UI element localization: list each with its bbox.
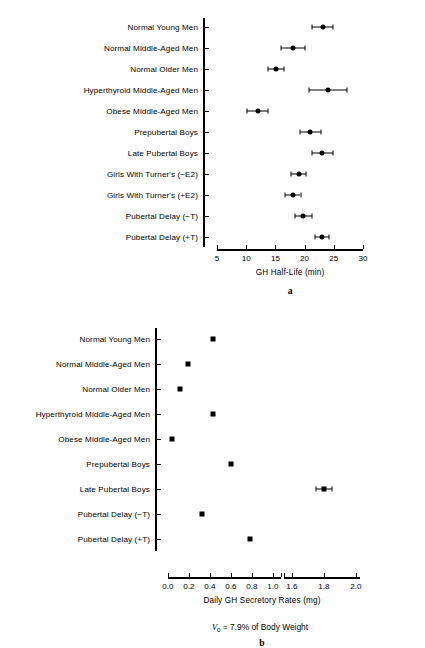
panel-a-category-label: Pubertal Delay (+T) <box>126 233 198 242</box>
panel-a-error-cap <box>312 214 313 219</box>
panel-a-x-tick <box>305 245 306 249</box>
panel-b-y-tick <box>157 339 161 340</box>
panel-a-error-cap <box>312 25 313 30</box>
panel-b-axis-break-marker <box>284 573 285 577</box>
panel-a-y-tick <box>205 174 209 175</box>
volume-note-text: = 7.9% of Body Weight <box>220 622 308 632</box>
panel-a-error-cap <box>311 151 312 156</box>
panel-a-data-point <box>301 214 306 219</box>
panel-a-data-point <box>320 25 325 30</box>
panel-b-category-label: Pubertal Delay (−T) <box>78 510 150 519</box>
panel-b-y-tick <box>157 439 161 440</box>
panel-b-category-label: Hyperthyroid Middle-Aged Men <box>36 410 150 419</box>
panel-b-x-axis-title: Daily GH Secretory Rates (mg) <box>203 596 320 606</box>
panel-a-data-point <box>273 67 278 72</box>
panel-a-y-tick <box>205 48 209 49</box>
panel-a-x-tick <box>217 245 218 249</box>
panel-a-y-tick <box>205 90 209 91</box>
panel-a-error-cap <box>294 214 295 219</box>
panel-a-data-point <box>325 88 330 93</box>
panel-b-data-point <box>247 537 252 542</box>
panel-a-x-tick-label: 10 <box>242 254 251 263</box>
panel-b-x-tick-label: 0.6 <box>225 582 236 591</box>
panel-b-category-labels: Normal Young MenNormal Middle-Aged MenNo… <box>0 310 150 601</box>
panel-a: Normal Young MenNormal Middle-Aged MenNo… <box>0 0 425 310</box>
panel-a-error-cap <box>268 67 269 72</box>
panel-a-x-tick <box>334 245 335 249</box>
panel-b-x-tick <box>324 573 325 577</box>
panel-a-error-cap <box>247 109 248 114</box>
panel-a-error-cap <box>308 88 309 93</box>
panel-b-error-cap <box>316 487 317 492</box>
panel-b-x-tick-label: 0.0 <box>162 582 173 591</box>
panel-b-category-label: Normal Older Men <box>82 385 150 394</box>
panel-a-error-cap <box>306 172 307 177</box>
panel-b-x-tick-label: 0.4 <box>204 582 215 591</box>
panel-b-category-label: Normal Middle-Aged Men <box>56 360 150 369</box>
panel-b-x-tick <box>231 573 232 577</box>
panel-b-y-tick <box>157 489 161 490</box>
panel-a-error-cap <box>281 46 282 51</box>
panel-b-x-tick <box>273 573 274 577</box>
panel-a-category-label: Obese Middle-Aged Men <box>106 107 198 116</box>
panel-b-error-cap <box>332 487 333 492</box>
panel-b-data-point <box>199 512 204 517</box>
panel-a-category-labels: Normal Young MenNormal Middle-Aged MenNo… <box>0 0 198 310</box>
volume-of-distribution-note: V0 = 7.9% of Body Weight <box>212 622 308 632</box>
panel-a-letter: a <box>288 286 293 296</box>
panel-b-x-tick <box>356 573 357 577</box>
panel-a-error-cap <box>315 235 316 240</box>
panel-a-x-tick-label: 20 <box>300 254 309 263</box>
panel-b-x-tick <box>292 573 293 577</box>
panel-a-y-tick <box>205 195 209 196</box>
panel-a-error-cap <box>329 235 330 240</box>
panel-a-error-cap <box>291 172 292 177</box>
panel-b-x-tick <box>168 573 169 577</box>
panel-a-x-tick <box>246 245 247 249</box>
panel-b-y-tick <box>157 364 161 365</box>
panel-a-y-tick <box>205 132 209 133</box>
panel-a-error-cap <box>347 88 348 93</box>
panel-b-x-tick <box>252 573 253 577</box>
panel-b-data-point <box>185 362 190 367</box>
panel-a-category-label: Normal Middle-Aged Men <box>104 44 198 53</box>
panel-a-data-point <box>255 109 260 114</box>
panel-b-y-tick <box>157 389 161 390</box>
panel-b: Normal Young MenNormal Middle-Aged MenNo… <box>0 310 425 601</box>
panel-b-x-axis-left-segment <box>168 577 281 579</box>
panel-a-error-cap <box>304 46 305 51</box>
panel-b-category-label: Prepubertal Boys <box>86 460 150 469</box>
panel-b-y-tick <box>157 539 161 540</box>
panel-a-category-label: Girls With Turner's (−E2) <box>107 170 198 179</box>
panel-b-data-point <box>211 337 216 342</box>
panel-a-error-cap <box>283 67 284 72</box>
panel-b-x-tick-label: 0.8 <box>246 582 257 591</box>
panel-b-category-label: Normal Young Men <box>80 335 150 344</box>
panel-a-data-point <box>296 172 301 177</box>
panel-a-error-cap <box>300 193 301 198</box>
panel-b-data-point <box>169 437 174 442</box>
panel-a-y-tick <box>205 216 209 217</box>
panel-a-y-tick <box>205 237 209 238</box>
panel-b-category-label: Obese Middle-Aged Men <box>58 435 150 444</box>
panel-a-data-point <box>308 130 313 135</box>
panel-a-data-point <box>290 193 295 198</box>
panel-a-error-cap <box>333 25 334 30</box>
panel-a-x-tick-label: 25 <box>329 254 338 263</box>
panel-a-error-cap <box>268 109 269 114</box>
panel-a-x-axis <box>217 249 363 251</box>
panel-a-category-label: Girls With Turner's (+E2) <box>107 191 198 200</box>
panel-b-data-point <box>229 462 234 467</box>
panel-a-y-tick <box>205 27 209 28</box>
panel-b-data-point <box>322 487 327 492</box>
panel-a-x-axis-title: GH Half-Life (min) <box>256 268 325 278</box>
panel-b-y-tick <box>157 414 161 415</box>
panel-b-y-tick <box>157 464 161 465</box>
panel-b-x-tick <box>210 573 211 577</box>
panel-a-category-label: Prepubertal Boys <box>134 128 198 137</box>
panel-a-x-tick-label: 30 <box>358 254 367 263</box>
panel-a-y-tick <box>205 69 209 70</box>
panel-a-error-cap <box>320 130 321 135</box>
panel-a-category-label: Pubertal Delay (−T) <box>126 212 198 221</box>
